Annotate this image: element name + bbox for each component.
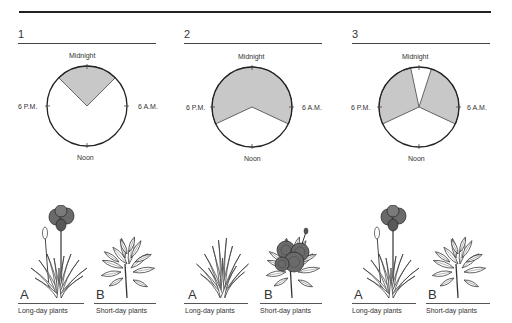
- long-day-plant-illustration: [190, 225, 255, 300]
- clock-dial: [18, 0, 158, 160]
- caption-rule-b: [260, 303, 322, 304]
- caption-long-day: Long-day plants: [18, 307, 68, 314]
- caption-rule-a: [18, 303, 84, 304]
- caption-long-day: Long-day plants: [352, 307, 402, 314]
- plant-letter-b: B: [428, 287, 437, 302]
- clock-dial: [352, 0, 492, 160]
- clock-dial: [184, 0, 324, 160]
- plant-letter-a: A: [20, 287, 29, 302]
- plant-letter-b: B: [96, 287, 105, 302]
- caption-rule-a: [184, 303, 248, 304]
- caption-rule-b: [94, 303, 156, 304]
- panel-3: 3 Midnight 6 P.M. 6 A.M. Noon A B Long-d…: [352, 0, 492, 323]
- plant-letter-b: B: [264, 287, 273, 302]
- plant-letter-a: A: [188, 287, 197, 302]
- panel-1: 1 Midnight 6 P.M. 6 A.M. Noon A B Long-d…: [18, 0, 158, 323]
- panel-2: 2 Midnight 6 P.M. 6 A.M. Noon A B Long-d…: [184, 0, 324, 323]
- caption-short-day: Short-day plants: [260, 307, 311, 314]
- caption-rule-a: [352, 303, 416, 304]
- caption-rule-b: [426, 303, 490, 304]
- long-day-plant-illustration: [356, 205, 426, 300]
- plant-letter-a: A: [354, 287, 363, 302]
- short-day-plant-illustration: [96, 210, 158, 300]
- caption-short-day: Short-day plants: [426, 307, 477, 314]
- caption-long-day: Long-day plants: [185, 307, 235, 314]
- long-day-plant-illustration: [24, 205, 94, 300]
- caption-short-day: Short-day plants: [96, 307, 147, 314]
